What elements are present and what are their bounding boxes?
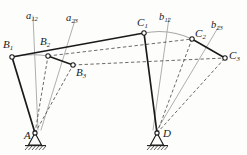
support-hatch-A (25, 146, 46, 150)
label-C2: C2 (195, 28, 206, 39)
link-B2-B3 (48, 56, 73, 65)
label-B1: B1 (3, 39, 13, 50)
pivot-joint-A (33, 131, 37, 135)
joint-C2 (190, 37, 194, 41)
diagram-canvas: B1 B2 B3 C1 C2 C3 A D a12 a23 b12 b23 (0, 0, 247, 155)
label-B3: B3 (76, 67, 86, 78)
label-C3: C3 (229, 50, 240, 61)
coupler-B1-C1 (12, 33, 144, 57)
joint-B3 (71, 63, 75, 67)
linkage-figure (0, 0, 247, 155)
crank-D-C3-dashed (157, 58, 225, 133)
label-C1: C1 (137, 17, 148, 28)
pivot-joint-D (155, 131, 159, 135)
joint-C1 (142, 31, 146, 35)
crank-A-B1 (12, 57, 35, 133)
coupler-B2-C2-dashed (48, 39, 192, 56)
label-a23: a23 (66, 13, 78, 24)
label-B2: B2 (40, 36, 50, 47)
label-b12: b12 (159, 12, 171, 23)
support-hatch-D (147, 146, 168, 150)
construction-line-group (33, 16, 219, 130)
arc-C1-C2 (144, 31, 192, 39)
link-C2-C3 (192, 39, 225, 58)
label-a12: a12 (26, 11, 38, 22)
joint-C3 (223, 56, 227, 60)
label-A: A (24, 130, 31, 141)
crank-D-C2-dashed (157, 39, 192, 133)
label-b23: b23 (211, 20, 223, 31)
joint-B2 (46, 54, 50, 58)
crank-D-C1 (144, 33, 157, 133)
label-D: D (163, 128, 171, 139)
construction-line-b23 (157, 26, 219, 130)
construction-line-a12 (33, 16, 38, 130)
solid-member-group (12, 33, 157, 133)
joint-B1 (10, 55, 14, 59)
dashed-crank-group (35, 39, 225, 133)
coupler-B3-C3-dashed (73, 58, 225, 65)
